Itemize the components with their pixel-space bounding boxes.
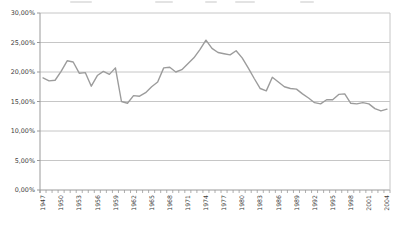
y-axis-tick-label: 15,00% — [11, 98, 35, 106]
y-axis-tick-label: 0,00% — [15, 186, 35, 194]
y-axis-tick-label: 20,00% — [11, 68, 35, 76]
x-axis-tick-label: 1956 — [94, 195, 101, 211]
y-axis-tick-label: 10,00% — [11, 127, 35, 135]
y-axis-tick-label: 25,00% — [11, 39, 35, 47]
x-axis-tick-label: 1980 — [238, 195, 245, 211]
x-axis-tick-label: 1947 — [39, 195, 46, 211]
x-axis-tick-label: 1965 — [148, 195, 155, 211]
x-axis-tick-label: 1974 — [202, 195, 209, 211]
x-axis-tick-label: 1959 — [112, 195, 119, 211]
x-axis-tick-label: 1986 — [275, 195, 282, 211]
x-axis-tick-label: 1992 — [311, 195, 318, 211]
x-axis-tick-label: 1977 — [220, 195, 227, 211]
x-axis-tick-label: 1953 — [75, 195, 82, 211]
x-axis-tick-label: 1971 — [184, 195, 191, 211]
x-axis-tick-label: 1983 — [256, 195, 263, 211]
chart-screenshot: 0,00%5,00%10,00%15,00%20,00%25,00%30,00%… — [0, 0, 397, 225]
x-axis-tick-label: 1950 — [57, 195, 64, 211]
line-chart: 0,00%5,00%10,00%15,00%20,00%25,00%30,00%… — [0, 0, 397, 225]
x-axis-tick-label: 2001 — [365, 195, 372, 211]
y-axis-tick-label: 5,00% — [15, 157, 35, 165]
x-axis-tick-label: 1962 — [130, 195, 137, 211]
x-axis-tick-label: 1989 — [293, 195, 300, 211]
data-series-line — [43, 40, 387, 111]
x-axis-tick-label: 1995 — [329, 195, 336, 211]
x-axis-tick-label: 1998 — [347, 195, 354, 211]
y-axis-tick-label: 30,00% — [11, 9, 35, 17]
x-axis-tick-label: 2004 — [383, 195, 390, 211]
x-axis-tick-label: 1968 — [166, 195, 173, 211]
